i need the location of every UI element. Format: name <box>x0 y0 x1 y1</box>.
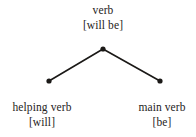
main-verb-word-text: [be] <box>138 115 185 130</box>
branch-right <box>103 49 160 81</box>
root-category-text: verb <box>83 3 123 18</box>
main-verb-category-text: main verb <box>138 100 185 115</box>
helping-verb-word-text: [will] <box>12 115 71 130</box>
helping-verb-category-text: helping verb <box>12 100 71 115</box>
node-dot-helping-verb <box>46 78 51 83</box>
node-label-main-verb: main verb [be] <box>138 100 185 130</box>
syntax-tree-diagram: verb [will be] helping verb [will] main … <box>0 0 196 137</box>
node-dot-main-verb <box>157 78 162 83</box>
branch-left <box>49 49 103 81</box>
node-dot-root <box>100 46 105 51</box>
node-label-root: verb [will be] <box>83 3 123 33</box>
node-label-helping-verb: helping verb [will] <box>12 100 71 130</box>
root-word-text: [will be] <box>83 18 123 33</box>
